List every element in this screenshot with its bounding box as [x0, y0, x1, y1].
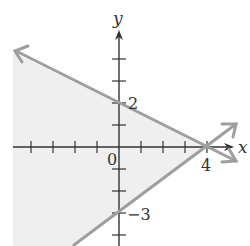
x-tick-label-4: 4 [201, 156, 211, 175]
y-axis-label: y [112, 8, 123, 28]
y-tick-label-neg3: −3 [127, 205, 151, 224]
y-tick-label-2: 2 [128, 94, 138, 113]
inequality-graph: y x 0 4 2 −3 [0, 0, 250, 246]
x-axis-label: x [238, 137, 248, 157]
origin-label: 0 [107, 150, 117, 169]
